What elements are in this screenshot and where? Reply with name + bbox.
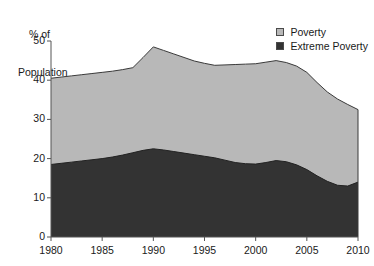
poverty-area-chart: % of Population Poverty Extreme Poverty … [0,0,374,266]
plot-area [0,0,374,266]
y-tick-label: 40 [23,73,45,85]
x-tick-label: 1980 [31,244,71,256]
x-tick-label: 1995 [185,244,225,256]
x-tick-label: 1985 [82,244,122,256]
y-tick-label: 50 [23,34,45,46]
y-tick-label: 0 [23,230,45,242]
area-series-group [51,47,358,237]
y-tick-label: 20 [23,152,45,164]
x-tick-label: 1990 [133,244,173,256]
x-tick-label: 2000 [236,244,276,256]
y-tick-label: 30 [23,112,45,124]
x-tick-label: 2005 [287,244,327,256]
x-tick-label: 2010 [338,244,374,256]
y-tick-label: 10 [23,191,45,203]
